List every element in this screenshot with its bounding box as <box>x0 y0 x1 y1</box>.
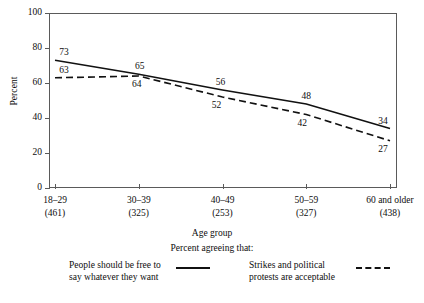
x-tick-mark <box>139 184 140 189</box>
x-tick-mark <box>55 184 56 189</box>
data-point-label: 42 <box>290 118 314 128</box>
y-tick-mark <box>45 153 50 154</box>
x-tick-group: 60 and older <box>347 194 424 207</box>
y-tick-label: 60 <box>10 77 42 87</box>
x-tick-label: 18–29(461) <box>12 194 98 219</box>
x-tick-group: 18–29 <box>12 194 98 207</box>
y-tick-mark <box>45 188 50 189</box>
data-point-label: 63 <box>52 65 76 75</box>
legend-item-dashed: Strikes and political protests are accep… <box>249 260 335 283</box>
x-tick-group: 30–39 <box>96 194 182 207</box>
x-tick-group: 50–59 <box>263 194 349 207</box>
y-tick-label: 0 <box>10 182 42 192</box>
legend-solid-label-line1: People should be free to <box>69 260 161 272</box>
y-tick-mark <box>45 48 50 49</box>
x-tick-count: (253) <box>180 207 266 220</box>
x-tick-mark <box>306 184 307 189</box>
data-point-label: 48 <box>294 91 318 101</box>
data-point-label: 52 <box>205 100 229 110</box>
legend-dashed-label-line2: protests are acceptable <box>249 272 335 284</box>
legend-item-solid: People should be free to say whatever th… <box>69 260 161 283</box>
x-axis-title: Age group <box>0 228 424 238</box>
x-tick-mark <box>390 184 391 189</box>
legend-caption: Percent agreeing that: <box>0 243 424 253</box>
x-tick-count: (438) <box>347 207 424 220</box>
y-tick-mark <box>45 13 50 14</box>
y-tick-label: 40 <box>10 112 42 122</box>
x-tick-label: 30–39(325) <box>96 194 182 219</box>
x-tick-group: 40–49 <box>180 194 266 207</box>
data-point-label: 27 <box>371 144 395 154</box>
x-tick-count: (325) <box>96 207 182 220</box>
x-tick-label: 40–49(253) <box>180 194 266 219</box>
legend-solid-label-line2: say whatever they want <box>69 272 161 284</box>
legend-dashed-label-line1: Strikes and political <box>249 260 335 272</box>
data-point-label: 73 <box>52 47 76 57</box>
y-tick-label: 100 <box>10 7 42 17</box>
y-tick-mark <box>45 83 50 84</box>
legend-swatch-dashed-line <box>356 267 390 269</box>
legend-swatch-solid-line <box>176 267 210 269</box>
data-point-label: 65 <box>128 61 152 71</box>
x-tick-label: 50–59(327) <box>263 194 349 219</box>
x-tick-mark <box>223 184 224 189</box>
y-tick-label: 80 <box>10 42 42 52</box>
x-tick-label: 60 and older(438) <box>347 194 424 219</box>
data-point-label: 34 <box>371 116 395 126</box>
x-tick-count: (461) <box>12 207 98 220</box>
chart-legend: People should be free to say whatever th… <box>0 258 424 288</box>
data-point-label: 56 <box>209 77 233 87</box>
y-tick-mark <box>45 118 50 119</box>
y-tick-label: 20 <box>10 147 42 157</box>
x-tick-count: (327) <box>263 207 349 220</box>
chart-figure: Percent 020406080100 18–29(461)30–39(325… <box>0 0 424 303</box>
data-point-label: 64 <box>125 79 149 89</box>
